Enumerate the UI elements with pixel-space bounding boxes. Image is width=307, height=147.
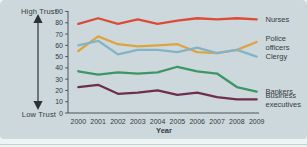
series-label-police-officers: Police [266,34,286,43]
x-tick-label: 2001 [90,118,106,125]
y-tick-label: 90 [55,8,63,15]
x-axis-title: Year [68,126,260,135]
figure-bottom-rule [0,144,307,145]
x-tick-label: 2008 [229,118,245,125]
series-label-business-executives: Business [266,91,297,100]
x-tick-label: 2009 [249,118,265,125]
y-tick-label: 0 [59,110,63,117]
series-line-clergy [78,41,256,57]
y-tick-label: 60 [55,42,63,49]
series-label-nurses: Nurses [266,15,290,24]
y-tick-label: 20 [55,87,63,94]
series-line-business-executives [78,85,256,100]
y-tick-label: 10 [55,98,63,105]
x-tick-label: 2003 [130,118,146,125]
x-tick-label: 2006 [189,118,205,125]
series-label-police-officers: officers [266,43,290,52]
y-tick-label: 30 [55,76,63,83]
x-tick-label: 2005 [170,118,186,125]
x-tick-label: 2000 [71,118,87,125]
y-tick-label: 80 [55,19,63,26]
x-tick-label: 2007 [209,118,225,125]
y-tick-label: 70 [55,31,63,38]
y-tick-label: 50 [55,53,63,60]
y-tick-label: 40 [55,64,63,71]
trust-chart-svg: 0102030405060708090200020012002200320042… [0,0,307,147]
series-label-clergy: Clergy [266,52,288,61]
series-label-business-executives: executives [266,100,302,109]
x-tick-label: 2002 [110,118,126,125]
series-line-nurses [78,18,256,24]
x-tick-label: 2004 [150,118,166,125]
